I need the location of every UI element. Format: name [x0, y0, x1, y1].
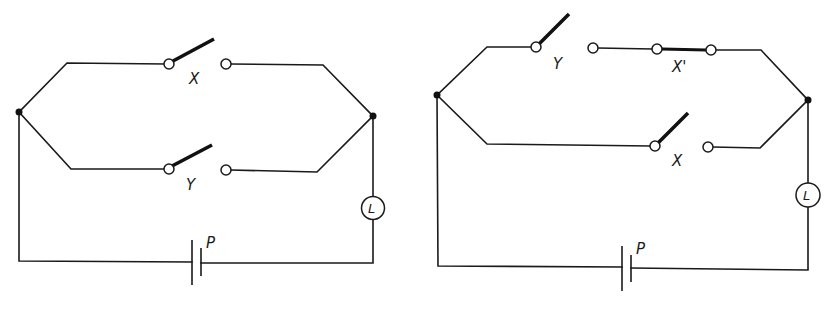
battery-label: P: [636, 240, 646, 258]
lamp-label: L: [803, 188, 810, 203]
left-return-wire: [19, 112, 192, 262]
right-top-branch-wire-a: [437, 47, 531, 95]
switch-lever-closed: [662, 49, 706, 50]
switch-fixed-contact: [221, 165, 231, 175]
right-circuit: Y X' X L P: [434, 14, 821, 291]
junction-node-right: [805, 97, 812, 104]
junction-node-left: [434, 92, 441, 99]
left-top-branch-wire-b: [231, 64, 373, 116]
lamp-label: L: [368, 201, 375, 216]
junction-node-right: [370, 113, 377, 120]
switch-fixed-contact: [703, 142, 713, 152]
switch-label: X': [671, 58, 686, 76]
left-battery: P: [192, 234, 216, 285]
circuit-diagrams: X Y L P: [0, 0, 831, 315]
switch-lever: [539, 14, 569, 44]
right-battery: P: [622, 240, 646, 291]
switch-pivot-contact: [164, 164, 174, 174]
right-return-wire: [437, 95, 622, 267]
left-lamp: L: [362, 197, 385, 220]
battery-label: P: [206, 234, 216, 252]
switch-label: Y: [553, 55, 564, 73]
right-bottom-branch-wire-a: [437, 95, 650, 146]
switch-lever: [173, 39, 214, 61]
right-switch-y: Y: [531, 14, 598, 73]
switch-pivot-contact: [652, 44, 662, 54]
left-bottom-branch-wire-a: [19, 112, 164, 169]
switch-fixed-contact: [588, 43, 598, 53]
switch-label: Y: [186, 176, 197, 194]
switch-fixed-contact: [221, 59, 231, 69]
left-switch-y: Y: [164, 145, 231, 194]
switch-label: X: [671, 152, 683, 170]
left-circuit: X Y L P: [16, 39, 385, 285]
switch-lever: [658, 113, 688, 143]
junction-node-left: [16, 109, 23, 116]
switch-pivot-contact: [650, 141, 660, 151]
left-switch-x: X: [164, 39, 231, 88]
right-top-branch-wire-b: [598, 48, 652, 49]
switch-pivot-contact: [164, 59, 174, 69]
right-bottom-branch-wire-b: [713, 100, 808, 148]
left-top-branch-wire-a: [19, 63, 165, 112]
right-switch-x: X: [650, 113, 713, 170]
right-lamp: L: [796, 183, 820, 207]
switch-fixed-contact: [706, 45, 716, 55]
switch-label: X: [188, 70, 200, 88]
switch-lever: [172, 145, 212, 166]
right-top-branch-wire-c: [716, 50, 808, 100]
right-lamp-wire-bottom: [631, 207, 808, 270]
left-bottom-branch-wire-b: [231, 116, 373, 172]
switch-pivot-contact: [531, 42, 541, 52]
right-switch-x-prime: X': [652, 44, 716, 76]
left-lamp-wire-bottom: [201, 219, 373, 263]
